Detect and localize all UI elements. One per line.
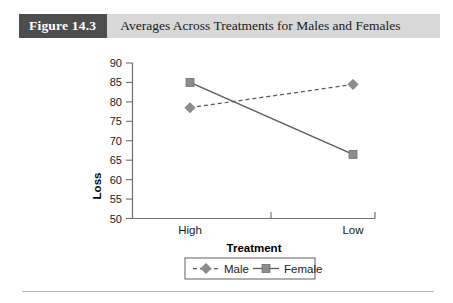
data-point-male-high: [185, 103, 195, 113]
data-point-female-high: [186, 78, 194, 86]
y-tick-label: 80: [110, 96, 122, 108]
line-chart: Loss 505560657075808590 HighLow Treatmen…: [0, 44, 453, 284]
y-axis-title: Loss: [91, 173, 103, 200]
chart-svg: Loss 505560657075808590 HighLow Treatmen…: [0, 44, 453, 284]
x-category-label: Low: [342, 224, 364, 236]
footer-divider: [22, 291, 434, 292]
y-tick-label: 85: [110, 76, 122, 88]
y-tick-label: 75: [110, 115, 122, 127]
x-axis-title: Treatment: [227, 242, 282, 254]
data-point-female-low: [349, 150, 357, 158]
data-point-male-low: [348, 79, 358, 89]
chart-legend: MaleFemale: [185, 258, 322, 279]
x-axis-category-labels: HighLow: [178, 224, 364, 236]
y-tick-label: 60: [110, 174, 122, 186]
figure-number-badge: Figure 14.3: [19, 14, 107, 38]
y-axis-ticks: 505560657075808590: [110, 57, 133, 225]
legend-label-female: Female: [284, 263, 322, 275]
figure-caption: Averages Across Treatments for Males and…: [107, 14, 440, 38]
legend-marker-female: [262, 265, 270, 273]
x-category-label: High: [178, 224, 202, 236]
figure-header: Figure 14.3 Averages Across Treatments f…: [19, 14, 440, 38]
y-tick-label: 55: [110, 193, 122, 205]
y-tick-label: 65: [110, 154, 122, 166]
series-line-female: [190, 82, 353, 154]
legend-label-male: Male: [224, 263, 249, 275]
y-tick-label: 50: [110, 213, 122, 225]
series-line-male: [190, 84, 353, 107]
series-group: [185, 78, 358, 158]
y-tick-label: 90: [110, 57, 122, 69]
y-tick-label: 70: [110, 135, 122, 147]
